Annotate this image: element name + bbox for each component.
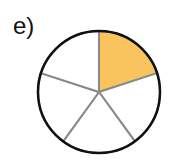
fraction-circle [0,0,175,162]
